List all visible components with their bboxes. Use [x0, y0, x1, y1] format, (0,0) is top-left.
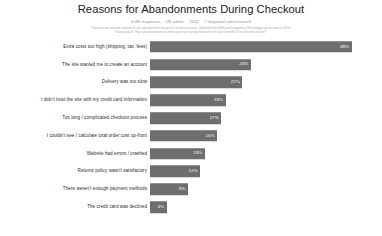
bar-value-label: 17% — [210, 115, 222, 121]
bar-row: Website had errors / crashed13% — [0, 145, 382, 163]
bar-row: Extra costs too high (shipping, tax, fee… — [0, 38, 382, 56]
bar-value-label: 12% — [189, 168, 201, 174]
bar-row: The site wanted me to create an account2… — [0, 56, 382, 74]
bar-row: I didn't trust the site with my credit c… — [0, 91, 382, 109]
subtitle-year: 2022 — [190, 19, 199, 24]
bar-category-label: Returns policy wasn't satisfactory — [0, 168, 150, 174]
bar[interactable]: 18% — [150, 95, 226, 107]
bar[interactable]: 16% — [150, 130, 217, 142]
bar-value-label: 48% — [340, 44, 352, 50]
bar-value-label: 9% — [179, 186, 188, 192]
bar[interactable]: 12% — [150, 166, 200, 178]
bar-track: 22% — [150, 74, 382, 92]
bar-value-label: 22% — [231, 79, 243, 85]
bar-track: 17% — [150, 109, 382, 127]
bar-category-label: The credit card was declined — [0, 204, 150, 210]
bar-chart-plot: Extra costs too high (shipping, tax, fee… — [0, 38, 382, 234]
bar-category-label: Extra costs too high (shipping, tax, fee… — [0, 44, 150, 50]
bar-row: Delivery was too slow22% — [0, 74, 382, 92]
bar-value-label: 18% — [214, 97, 226, 103]
bar-row: There weren't enough payment methods9% — [0, 180, 382, 198]
bar-value-label: 16% — [206, 133, 218, 139]
chart-title: Reasons for Abandonments During Checkout — [0, 3, 382, 16]
bar-category-label: Website had errors / crashed — [0, 151, 150, 157]
bar-category-label: I couldn't see / calculate total order c… — [0, 133, 150, 139]
bar[interactable]: 13% — [150, 148, 205, 160]
bar-category-label: The site wanted me to create an account — [0, 62, 150, 68]
subtitle-source: © baymard.com/research — [204, 19, 251, 24]
bar-track: 13% — [150, 145, 382, 163]
subtitle-responses: 4.0M responses — [131, 19, 161, 24]
bar-value-label: 13% — [193, 151, 205, 157]
bar-track: 9% — [150, 180, 382, 198]
chart-header: Reasons for Abandonments During Checkout… — [0, 0, 382, 34]
chart-footnote-line-2: Survey asked: "Have you abandoned an onl… — [78, 30, 304, 34]
bar-value-label: 24% — [239, 62, 251, 68]
chart-subtitle: 4.0M responses·US adults·2022·© baymard.… — [0, 18, 382, 25]
bar-track: 24% — [150, 56, 382, 74]
bar-track: 12% — [150, 163, 382, 181]
bar[interactable]: 48% — [150, 41, 352, 53]
bar[interactable]: 22% — [150, 77, 242, 89]
bar-row: Too long / complicated checkout process1… — [0, 109, 382, 127]
bar-row: I couldn't see / calculate total order c… — [0, 127, 382, 145]
bar[interactable]: 9% — [150, 184, 188, 196]
bar[interactable]: 17% — [150, 112, 221, 124]
bar-category-label: I didn't trust the site with my credit c… — [0, 97, 150, 103]
bar[interactable]: 24% — [150, 59, 251, 71]
bar-category-label: There weren't enough payment methods — [0, 186, 150, 192]
bar-value-label: 4% — [158, 204, 167, 210]
chart-figure: Reasons for Abandonments During Checkout… — [0, 0, 382, 236]
bar-track: 18% — [150, 91, 382, 109]
bar-track: 16% — [150, 127, 382, 145]
bar-track: 48% — [150, 38, 382, 56]
bar-row: Returns policy wasn't satisfactory12% — [0, 163, 382, 181]
bar-row: The credit card was declined4% — [0, 198, 382, 216]
chart-footnote: There are documented reasons for cart ab… — [0, 26, 382, 34]
bar-category-label: Too long / complicated checkout process — [0, 115, 150, 121]
bar-category-label: Delivery was too slow — [0, 79, 150, 85]
bar[interactable]: 4% — [150, 201, 167, 213]
bar-track: 4% — [150, 198, 382, 216]
subtitle-audience: US adults — [166, 19, 184, 24]
